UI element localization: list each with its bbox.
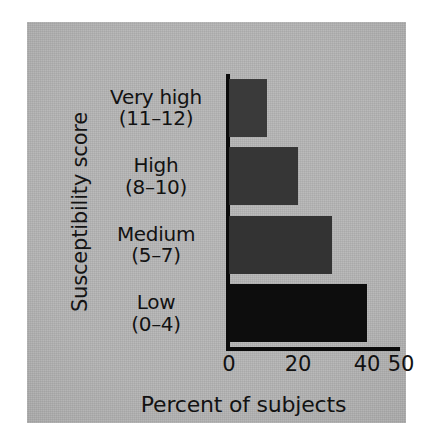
x-axis-title: Percent of subjects xyxy=(54,392,427,417)
x-tick-label-0: 0 xyxy=(222,352,235,376)
x-tick-label-40: 40 xyxy=(354,352,381,376)
category-name: High xyxy=(134,155,179,177)
category-name: Medium xyxy=(117,224,195,246)
bar-low xyxy=(229,284,401,342)
x-tick-label-50: 50 xyxy=(388,352,415,376)
category-name: Low xyxy=(137,292,176,314)
bar-fill xyxy=(229,147,298,205)
y-axis-category-labels: Very high (11–12) High (8–10) Medium (5–… xyxy=(89,74,223,348)
plot-area xyxy=(226,74,401,350)
category-label-high: High (8–10) xyxy=(89,143,223,212)
category-range: (11–12) xyxy=(119,108,193,130)
category-label-medium: Medium (5–7) xyxy=(89,211,223,280)
bar-series xyxy=(229,74,401,347)
category-range: (0–4) xyxy=(131,314,181,336)
category-label-very-high: Very high (11–12) xyxy=(89,74,223,143)
category-range: (8–10) xyxy=(125,177,187,199)
x-axis-line xyxy=(226,347,400,351)
bar-very-high xyxy=(229,79,401,137)
figure: Susceptibility score Very high (11–12) H… xyxy=(0,0,427,437)
x-tick-label-20: 20 xyxy=(285,352,312,376)
category-name: Very high xyxy=(110,87,202,109)
category-range: (5–7) xyxy=(131,245,181,267)
category-label-low: Low (0–4) xyxy=(89,280,223,349)
bar-medium xyxy=(229,216,401,274)
bar-fill xyxy=(229,79,267,137)
x-axis-tick-labels: 0204050 xyxy=(226,352,406,378)
bar-fill xyxy=(229,216,332,274)
bar-fill xyxy=(229,284,367,342)
bar-high xyxy=(229,147,401,205)
chart-panel: Susceptibility score Very high (11–12) H… xyxy=(27,22,406,423)
